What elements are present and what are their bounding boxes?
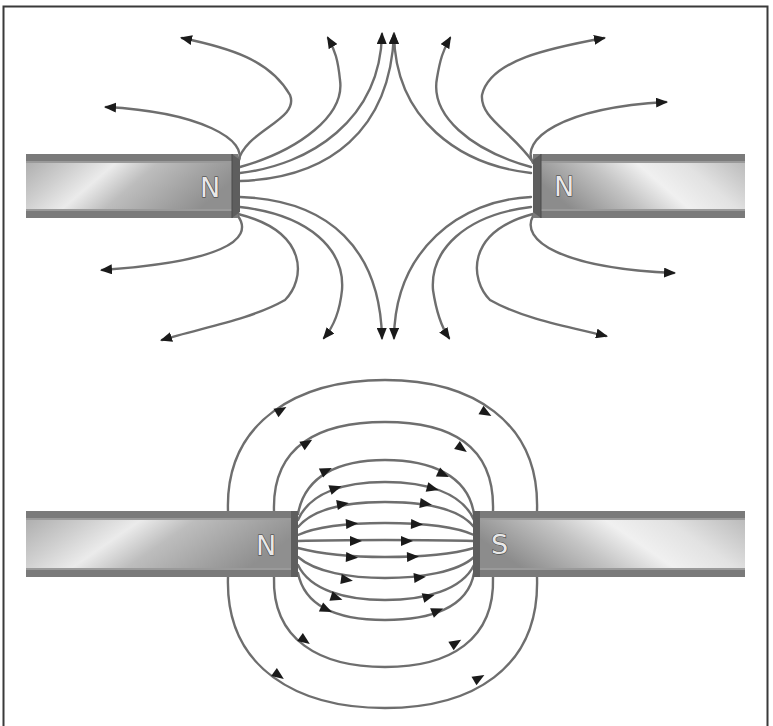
panel-repelling: N N (26, 34, 745, 340)
magnet-bottom-left: N (26, 511, 298, 577)
magnet-top-right: N (533, 154, 745, 218)
magnet-top-left: N (26, 154, 240, 218)
pole-label-n: N (554, 171, 574, 202)
figure-frame (4, 7, 768, 726)
magnetic-field-diagram: N N (0, 0, 773, 726)
magnet-bottom-right: S (473, 511, 745, 577)
pole-label-s: S (491, 529, 508, 560)
pole-label-n: N (200, 172, 220, 203)
field-arrowheads (271, 403, 494, 686)
panel-attracting: N S (26, 380, 745, 708)
pole-label-n: N (256, 530, 276, 561)
